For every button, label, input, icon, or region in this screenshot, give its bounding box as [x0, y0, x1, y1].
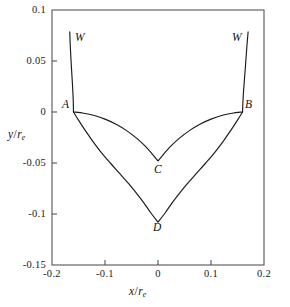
- x-tick-label: -0.1: [85, 268, 125, 279]
- y-axis-subscript: e: [22, 133, 26, 142]
- y-tick-label: 0.1: [6, 4, 46, 15]
- x-tick-label: -0.2: [32, 268, 72, 279]
- x-tick-label: 0.1: [191, 268, 231, 279]
- annotation-label-c: C: [154, 163, 162, 175]
- y-axis-title: y/re: [8, 128, 25, 142]
- annotation-label-d: D: [153, 221, 161, 233]
- y-tick-label: 0: [6, 106, 46, 117]
- x-tick-label: 0: [138, 268, 178, 279]
- y-tick-label: 0.05: [2, 55, 46, 66]
- annotation-label-w-right: W: [232, 31, 242, 43]
- annotation-label-a: A: [62, 98, 69, 110]
- x-axis-subscript: e: [143, 290, 147, 299]
- y-tick-label: -0.05: [0, 157, 46, 168]
- x-axis-title: x/re: [129, 285, 146, 299]
- annotation-label-b: B: [245, 98, 252, 110]
- y-tick-label: -0.1: [4, 208, 46, 219]
- x-tick-label: 0.2: [244, 268, 284, 279]
- figure-container: 0.1 0.05 0 -0.05 -0.1 -0.15 -0.2 -0.1 0 …: [0, 0, 290, 307]
- annotation-label-w-left: W: [75, 31, 85, 43]
